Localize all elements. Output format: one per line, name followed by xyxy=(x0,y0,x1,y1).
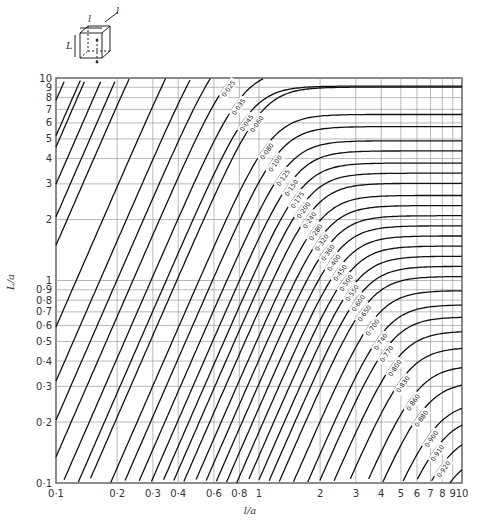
contour-label: 0·035 xyxy=(230,97,247,117)
x-tick-label: 0·3 xyxy=(145,488,161,499)
x-tick-label: 0·8 xyxy=(231,488,247,499)
x-tick-label: 7 xyxy=(427,488,433,499)
y-tick-label: 0·6 xyxy=(36,320,52,331)
x-tick-label: 4 xyxy=(378,488,384,499)
x-tick-label: 10 xyxy=(456,488,469,499)
y-tick-label: 0·1 xyxy=(36,478,52,489)
x-tick-label: 5 xyxy=(398,488,404,499)
inset-dim-depth: l xyxy=(116,5,119,16)
chart: l l L 0·0250·0350·0450·0600·0800·1000·12… xyxy=(0,0,481,525)
inset-dim-height: L xyxy=(65,40,73,51)
x-tick-label: 0·6 xyxy=(206,488,222,499)
y-tick-label: 5 xyxy=(46,133,52,144)
x-tick-label: 1 xyxy=(256,488,262,499)
x-axis-label: l/a xyxy=(244,505,257,516)
y-tick-label: 0·2 xyxy=(36,417,52,428)
y-tick-label: 0·5 xyxy=(36,336,52,347)
contour-label: 0·860 xyxy=(405,393,422,413)
x-tick-label: 0·1 xyxy=(48,488,64,499)
y-axis-label: L/a xyxy=(5,274,16,291)
contour-label: 0·025 xyxy=(220,79,237,99)
y-tick-label: 0·7 xyxy=(36,306,52,317)
contour-label: 0·880 xyxy=(413,409,430,429)
contour-line xyxy=(56,80,190,381)
y-tick-label: 2 xyxy=(46,214,52,225)
y-tick-label: 0·3 xyxy=(36,381,52,392)
contour-line xyxy=(56,79,129,245)
x-tick-label: 3 xyxy=(353,488,359,499)
x-tick-label: 0·4 xyxy=(170,488,186,499)
contour-label: 0·100 xyxy=(267,154,284,174)
axis-ticks: 0·10·20·30·40·60·8123456789100·10·20·30·… xyxy=(36,73,468,500)
cube-inset-icon xyxy=(75,12,118,63)
y-tick-label: 6 xyxy=(46,117,52,128)
y-tick-label: 3 xyxy=(46,178,52,189)
y-tick-label: 0·8 xyxy=(36,295,52,306)
contour-label: 0·920 xyxy=(435,460,452,480)
contour-line xyxy=(450,470,462,483)
y-tick-label: 10 xyxy=(39,73,52,84)
y-tick-label: 1 xyxy=(46,275,52,286)
contour-label: 0·830 xyxy=(395,374,412,394)
x-tick-label: 8 xyxy=(439,488,445,499)
inset-dim-width: l xyxy=(88,13,91,24)
contour-label: 0·700 xyxy=(364,318,381,338)
y-tick-label: 7 xyxy=(46,104,52,115)
x-tick-label: 2 xyxy=(317,488,323,499)
y-tick-label: 8 xyxy=(46,92,52,103)
y-tick-label: 0·4 xyxy=(36,356,52,367)
contour-line-unlabeled xyxy=(56,82,115,217)
contour-line xyxy=(56,80,80,135)
x-tick-label: 0·2 xyxy=(109,488,125,499)
x-tick-label: 6 xyxy=(414,488,420,499)
y-tick-label: 4 xyxy=(46,153,52,164)
